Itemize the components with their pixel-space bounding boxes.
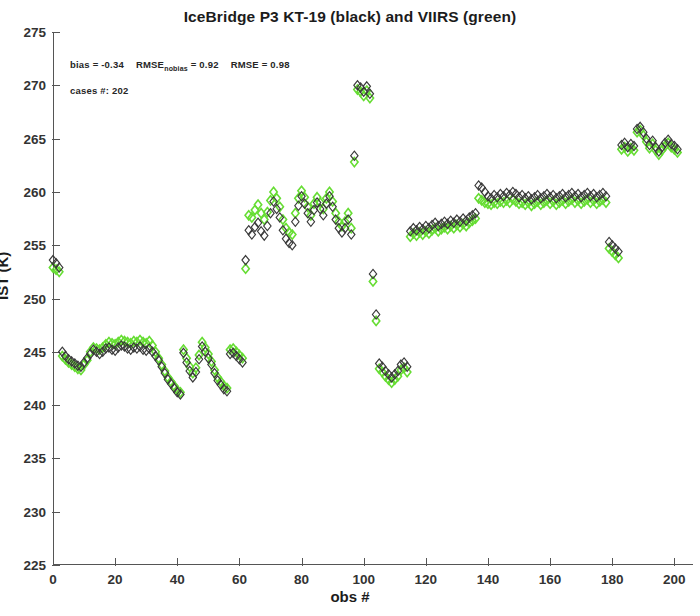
x-tick-label: 140 [477, 572, 500, 587]
series-kt19-black [49, 81, 681, 399]
series-viirs-green [49, 85, 681, 397]
data-point-marker [254, 200, 261, 209]
x-tick-label: 80 [294, 572, 309, 587]
plot-area: bias = -0.34RMSEnobias = 0.92RMSE = 0.98… [53, 32, 693, 565]
y-tick-label: 270 [23, 78, 46, 93]
data-point-marker [372, 310, 379, 319]
y-tick-label: 245 [23, 344, 46, 359]
y-tick-label: 265 [23, 131, 46, 146]
x-tick-label: 160 [539, 572, 562, 587]
x-axis-label: obs # [0, 588, 700, 605]
y-tick-label: 225 [23, 558, 46, 573]
y-tick-label: 230 [23, 504, 46, 519]
data-point-marker [372, 316, 379, 325]
y-tick-label: 255 [23, 238, 46, 253]
x-tick-label: 0 [49, 572, 57, 587]
x-tick-label: 20 [108, 572, 123, 587]
y-axis-label: IST (K) [0, 252, 11, 300]
scatter-markers [53, 32, 693, 565]
data-point-marker [307, 217, 314, 226]
x-tick-label: 120 [415, 572, 438, 587]
y-tick-label: 235 [23, 451, 46, 466]
y-tick-label: 240 [23, 398, 46, 413]
x-tick-label: 60 [232, 572, 247, 587]
data-point-marker [351, 151, 358, 160]
x-tick-label: 40 [170, 572, 185, 587]
y-tick-label: 275 [23, 25, 46, 40]
x-tick-label: 180 [601, 572, 624, 587]
figure-canvas: IceBridge P3 KT-19 (black) and VIIRS (gr… [0, 0, 700, 616]
data-point-marker [351, 157, 358, 166]
data-point-marker [180, 348, 187, 357]
y-tick-label: 250 [23, 291, 46, 306]
x-tick-label: 100 [352, 572, 375, 587]
data-point-marker [348, 230, 355, 239]
data-point-marker [180, 345, 187, 354]
x-tick-label: 200 [663, 572, 686, 587]
chart-title: IceBridge P3 KT-19 (black) and VIIRS (gr… [0, 8, 700, 26]
y-tick-label: 260 [23, 184, 46, 199]
data-point-marker [344, 209, 351, 218]
